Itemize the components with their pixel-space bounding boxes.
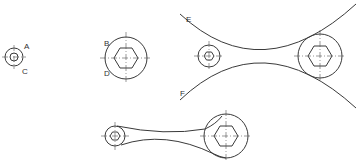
label-a: A [24,42,30,51]
figure-2-large-boss: B D [100,32,152,84]
label-f: F [180,89,185,98]
figure-4-completed-link [101,110,252,162]
lower-link-edge [121,139,226,158]
figure-1-small-boss: A C [2,42,30,76]
figure-3-construction-arcs: E F [180,4,356,108]
label-c: C [22,67,28,76]
label-e: E [186,15,191,24]
arc-e [180,4,356,50]
arc-f [180,63,356,108]
upper-link-edge [117,116,222,132]
drawing-canvas: A C B D E F [0,0,356,166]
label-d: D [104,69,110,78]
label-b: B [104,39,109,48]
